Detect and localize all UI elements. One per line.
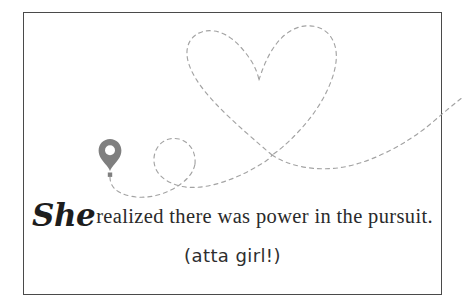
quote-line: Sherealized there was power in the pursu… [23, 200, 442, 231]
quote-body-text: realized there was power in the pursuit. [96, 205, 433, 227]
quote-card: Sherealized there was power in the pursu… [0, 0, 463, 307]
quote-script-word: She [32, 197, 96, 233]
dashed-flight-path [110, 26, 463, 197]
map-pin-balloon-icon [99, 139, 122, 177]
quote-subtitle: (atta girl!) [23, 245, 442, 266]
quote-text-block: Sherealized there was power in the pursu… [23, 200, 442, 266]
